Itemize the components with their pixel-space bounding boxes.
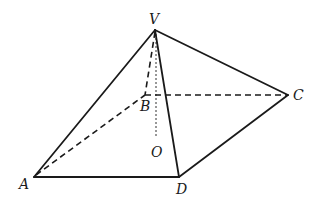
edge-va xyxy=(34,30,155,177)
label-v: V xyxy=(149,11,161,27)
edge-vc xyxy=(155,30,288,95)
label-c: C xyxy=(293,87,304,103)
label-d: D xyxy=(175,181,187,197)
pyramid-diagram: V B C O A D xyxy=(0,0,323,202)
edge-dc xyxy=(179,95,288,177)
label-a: A xyxy=(17,176,29,192)
label-b: B xyxy=(139,98,150,114)
label-o: O xyxy=(151,144,163,160)
